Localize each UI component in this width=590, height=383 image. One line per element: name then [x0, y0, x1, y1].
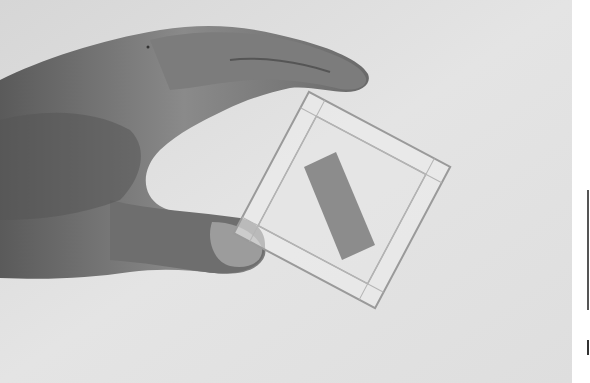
- photo-scene: [0, 0, 590, 383]
- dust-speck: [147, 46, 150, 49]
- photograph: [0, 0, 590, 383]
